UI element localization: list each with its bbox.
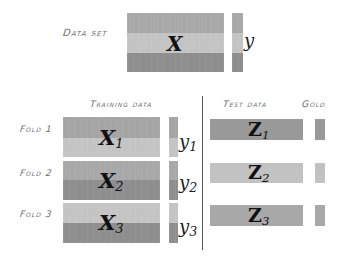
- train-test-divider: [202, 96, 203, 250]
- dataset-target-symbol: y: [244, 32, 254, 50]
- fold-1-target-subscript: 1: [189, 139, 197, 154]
- fold-3-target-subscript: 3: [189, 224, 197, 239]
- fold-1-target-symbol: y1: [179, 133, 197, 153]
- fold-3-test-symbol-base: Z: [248, 205, 262, 226]
- dataset-label: Data set: [62, 27, 108, 38]
- fold-2-train-symbol-base: X: [99, 168, 115, 193]
- fold-2-test-subscript: 2: [262, 171, 270, 183]
- fold-1-target-band-2: [169, 138, 178, 157]
- fold-1-target-band-1: [169, 117, 178, 138]
- fold-1-train-matrix: X1: [63, 117, 160, 157]
- fold-2-target-band-2: [169, 180, 178, 200]
- dataset-band-1: [127, 13, 224, 33]
- fold-3-target-band-2: [169, 223, 178, 243]
- fold-2-train-symbol: X2: [99, 170, 124, 193]
- fold-1-label: Fold 1: [19, 124, 53, 134]
- fold-2-test-matrix: Z2: [210, 163, 303, 183]
- fold-1-test-matrix: Z1: [210, 119, 303, 140]
- dataset-matrix: X: [127, 13, 224, 72]
- dataset-target-band-3: [232, 53, 243, 72]
- fold-3-target-symbol-base: y: [179, 216, 189, 237]
- fold-1-target-symbol-base: y: [179, 131, 189, 152]
- fold-2-target-column: [169, 161, 178, 200]
- fold-1-test-symbol-base: Z: [248, 119, 262, 140]
- fold-3-train-subscript: 3: [115, 221, 123, 236]
- fold-3-target-symbol: y3: [179, 218, 197, 238]
- fold-1-train-symbol-base: X: [99, 125, 115, 150]
- dataset-matrix-symbol: X: [167, 34, 183, 54]
- fold-1-test-subscript: 1: [262, 128, 270, 140]
- fold-3-train-symbol-base: X: [99, 210, 115, 235]
- training-data-header: Training data: [89, 99, 152, 109]
- fold-3-target-column: [169, 203, 178, 243]
- test-data-header: Test data: [222, 99, 267, 109]
- fold-3-gold-column: [315, 205, 325, 226]
- fold-3-target-band-1: [169, 203, 178, 223]
- fold-3-label: Fold 3: [19, 209, 53, 219]
- fold-2-target-symbol-base: y: [179, 172, 189, 193]
- fold-2-target-subscript: 2: [189, 180, 197, 195]
- fold-2-train-matrix: X2: [63, 161, 160, 200]
- fold-1-train-subscript: 1: [115, 136, 123, 151]
- fold-2-test-symbol-base: Z: [248, 163, 262, 183]
- gold-header: Gold: [301, 99, 326, 109]
- fold-1-train-symbol: X1: [99, 127, 124, 150]
- fold-2-label: Fold 2: [19, 168, 53, 178]
- fold-3-test-symbol: Z3: [248, 206, 269, 226]
- fold-2-test-symbol: Z2: [248, 163, 269, 183]
- fold-2-target-band-1: [169, 161, 178, 180]
- fold-1-target-column: [169, 117, 178, 157]
- fold-3-train-matrix: X3: [63, 203, 160, 243]
- fold-2-train-subscript: 2: [115, 179, 123, 194]
- fold-2-target-symbol: y2: [179, 174, 197, 194]
- dataset-target-band-2: [232, 33, 243, 53]
- fold-1-test-symbol: Z1: [248, 120, 269, 140]
- fold-3-test-subscript: 3: [262, 214, 270, 226]
- fold-3-test-matrix: Z3: [210, 205, 303, 226]
- fold-1-gold-column: [315, 119, 325, 140]
- fold-2-gold-column: [315, 163, 325, 183]
- dataset-target-band-1: [232, 13, 243, 33]
- fold-3-train-symbol: X3: [99, 212, 124, 235]
- dataset-target-column: [232, 13, 243, 72]
